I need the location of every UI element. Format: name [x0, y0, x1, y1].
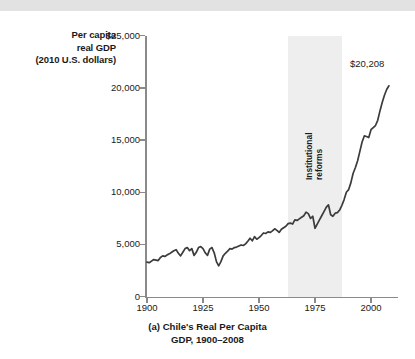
endpoint-value-label: $20,208 [350, 58, 384, 69]
plot-area: Institutional reforms 05,00010,00015,000… [0, 0, 415, 359]
figure-caption-line-1: (a) Chile's Real Per Capita [0, 321, 415, 334]
figure-caption: (a) Chile's Real Per Capita GDP, 1900–20… [0, 321, 415, 346]
figure-caption-line-2: GDP, 1900–2008 [0, 334, 415, 347]
figure-root: Per capita real GDP (2010 U.S. dollars) … [0, 0, 415, 359]
data-series-svg [0, 0, 415, 359]
line-series-chile-gdp [147, 86, 389, 266]
